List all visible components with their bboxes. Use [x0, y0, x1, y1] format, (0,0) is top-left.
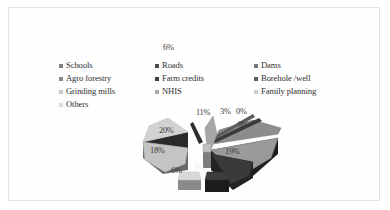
legend-item[interactable]: Borehole /well — [254, 74, 349, 83]
legend-item-label: Others — [66, 100, 88, 109]
legend-swatch-icon — [254, 77, 258, 81]
legend-swatch-icon — [155, 64, 159, 68]
legend-swatch-icon — [59, 103, 63, 107]
legend-item[interactable]: Agro forestry — [59, 74, 155, 83]
legend-swatch-icon — [254, 64, 258, 68]
legend-swatch-icon — [59, 64, 63, 68]
legend-item[interactable]: Family planning — [254, 87, 349, 96]
slice-sliver-left — [190, 122, 203, 144]
slice-dams-exploded — [205, 172, 229, 192]
detached-data-label: 6% — [163, 42, 174, 52]
legend-item-label: Farm credits — [162, 74, 204, 83]
pie-value-label: 20% — [159, 126, 173, 135]
pie-value-label: 9% — [238, 120, 249, 129]
chart-figure: 6% SchoolsRoadsDamsAgro forestryFarm cre… — [0, 0, 390, 210]
legend-item-label: Grinding mills — [66, 87, 115, 96]
legend-item[interactable]: Farm credits — [155, 74, 254, 83]
legend-swatch-icon — [59, 77, 63, 81]
pie-value-label: 8% — [194, 164, 205, 173]
legend-swatch-icon — [155, 90, 159, 94]
legend-item-label: Family planning — [261, 87, 316, 96]
legend-item-label: Roads — [162, 61, 183, 70]
legend-item[interactable]: NHIS — [155, 87, 254, 96]
legend-item[interactable]: Roads — [155, 61, 254, 70]
pie-value-label: 19% — [225, 147, 239, 156]
legend-item[interactable]: Grinding mills — [59, 87, 155, 96]
legend-item-label: Dams — [261, 61, 281, 70]
legend-item-label: Borehole /well — [261, 74, 310, 83]
pie-value-label: 0% — [236, 107, 247, 116]
pie-value-label: 6% — [171, 166, 182, 175]
legend-swatch-icon — [155, 77, 159, 81]
legend-item-label: Schools — [66, 61, 93, 70]
legend-item-label: NHIS — [162, 87, 182, 96]
legend-swatch-icon — [254, 90, 258, 94]
legend-item-label: Agro forestry — [66, 74, 111, 83]
pie-value-label: 11% — [196, 108, 210, 117]
pie-value-label: 18% — [150, 146, 164, 155]
legend-item[interactable]: Dams — [254, 61, 349, 70]
legend-item[interactable]: Schools — [59, 61, 155, 70]
pie-value-label: 3% — [220, 107, 231, 116]
legend-swatch-icon — [59, 90, 63, 94]
pie-chart: 11%3%0%9%19%8%6%18%20% — [133, 104, 289, 204]
